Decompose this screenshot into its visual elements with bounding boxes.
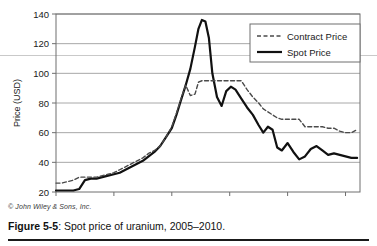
figure-caption: Figure 5-5: Spot price of uranium, 2005–… xyxy=(8,220,369,232)
copyright-notice: © John Wiley & Sons, Inc. xyxy=(8,203,91,210)
series-line-contract-price xyxy=(56,81,357,183)
ytick-label-40: 40 xyxy=(38,157,49,168)
uranium-price-line-chart: 2040608010012014020052006200720082009201… xyxy=(0,0,377,200)
ytick-label-20: 20 xyxy=(38,187,49,198)
figure-caption-block: © John Wiley & Sons, Inc. Figure 5-5: Sp… xyxy=(0,200,377,246)
ytick-label-140: 140 xyxy=(33,9,49,20)
ytick-label-100: 100 xyxy=(33,68,49,79)
chart-plot-area: 2040608010012014020052006200720082009201… xyxy=(0,0,377,200)
ytick-label-80: 80 xyxy=(38,98,49,109)
ytick-label-60: 60 xyxy=(38,127,49,138)
legend-label-contract-price: Contract Price xyxy=(287,31,347,42)
figure-number: Figure 5-5 xyxy=(8,220,58,232)
legend-label-spot-price: Spot Price xyxy=(287,47,331,58)
figure-caption-text: : Spot price of uranium, 2005–2010. xyxy=(58,220,225,232)
y-axis-title: Price (USD) xyxy=(12,79,22,127)
caption-divider xyxy=(8,239,369,241)
figure-container: 2040608010012014020052006200720082009201… xyxy=(0,0,377,246)
ytick-label-120: 120 xyxy=(33,38,49,49)
